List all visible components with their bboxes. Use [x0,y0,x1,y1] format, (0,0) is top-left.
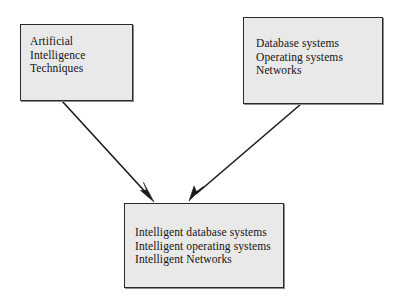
node-label: Intelligent database systems Intelligent… [135,226,271,267]
edge-systems-to-intelligent [189,104,301,201]
diagram-canvas: Artificial Intelligence Techniques Datab… [0,0,402,299]
arrowhead-icon [141,183,155,203]
node-label: Artificial Intelligence Techniques [30,35,85,76]
edge-line [62,101,149,196]
node-conventional-systems[interactable]: Database systems Operating systems Netwo… [243,17,383,104]
node-label: Database systems Operating systems Netwo… [256,37,343,78]
arrowhead-icon [189,186,204,201]
node-intelligent-systems[interactable]: Intelligent database systems Intelligent… [124,203,284,288]
edge-ai-to-intelligent [62,101,154,202]
node-artificial-intelligence-techniques[interactable]: Artificial Intelligence Techniques [20,24,133,101]
edge-line [196,104,301,194]
